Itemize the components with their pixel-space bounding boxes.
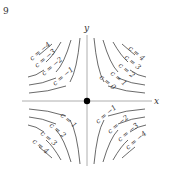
panel-label: 9 — [3, 6, 9, 16]
y-axis-label: y — [83, 23, 90, 33]
contour-plot: x y — [0, 0, 173, 179]
label-c-1-ll: c = 1 — [59, 111, 78, 129]
origin-dot — [84, 98, 90, 104]
x-axis-label: x — [154, 96, 159, 106]
contour-figure: 9 x y — [0, 0, 173, 179]
